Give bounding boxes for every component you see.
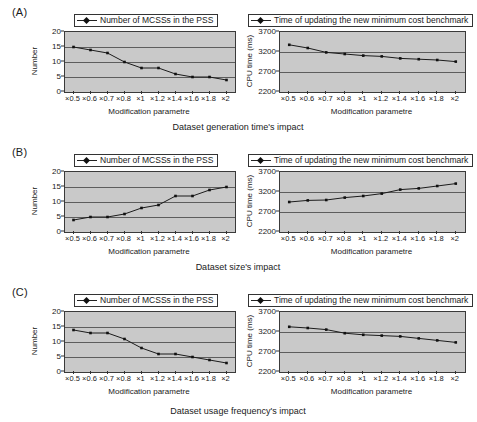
y-tick-label: 3200 [258, 327, 276, 336]
data-point [72, 219, 75, 222]
plot-area [279, 31, 466, 93]
data-point [399, 335, 402, 338]
x-tick-label: ×1.8 [429, 234, 444, 243]
x-tick-label: ×2 [221, 374, 230, 383]
data-series [65, 312, 235, 372]
legend-marker-icon [77, 16, 97, 25]
data-point [306, 199, 309, 202]
legend-label: Number of MCSSs in the PSS [100, 16, 213, 25]
legend-label: Number of MCSSs in the PSS [100, 156, 213, 165]
data-series [280, 32, 465, 92]
y-tick-mark [276, 191, 279, 192]
chart-a-right: Time of updating the new minimum cost be… [243, 0, 475, 140]
y-axis: 2200270032003700 [255, 31, 276, 91]
y-tick-label: 5 [57, 212, 61, 221]
x-tick-label: ×1.2 [373, 94, 388, 103]
data-point [89, 49, 92, 52]
x-tick-label: ×0.8 [336, 374, 351, 383]
data-point [123, 213, 126, 216]
x-tick-label: ×1.8 [429, 94, 444, 103]
x-tick-label: ×1 [358, 94, 367, 103]
y-tick-mark [61, 61, 64, 62]
data-series [65, 32, 235, 92]
x-tick-label: ×1.6 [184, 234, 199, 243]
data-point [436, 59, 439, 62]
x-axis: ×0.5×0.6×0.7×0.8×1×1.2×1.4×1.6×1.8×2 [279, 231, 464, 241]
y-tick-mark [276, 171, 279, 172]
legend-marker-icon [251, 156, 271, 165]
y-tick-mark [61, 186, 64, 187]
y-axis: 05101520 [40, 31, 61, 91]
legend-b-right: Time of updating the new minimum cost be… [248, 154, 473, 167]
chart-c-left: Number of MCSSs in the PSS 05101520Numbe… [14, 280, 240, 420]
y-tick-label: 15 [52, 182, 61, 191]
x-tick-label: ×0.8 [116, 374, 131, 383]
x-tick-label: ×0.5 [281, 94, 296, 103]
y-tick-mark [276, 211, 279, 212]
x-tick-label: ×0.6 [299, 94, 314, 103]
y-axis: 05101520 [40, 171, 61, 231]
x-axis-label: Modification parametre [108, 387, 189, 396]
legend-label: Number of MCSSs in the PSS [100, 296, 213, 305]
y-tick-mark [276, 31, 279, 32]
x-tick-label: ×0.8 [116, 234, 131, 243]
x-tick-label: ×0.7 [99, 94, 114, 103]
y-tick-label: 2700 [258, 207, 276, 216]
y-tick-label: 3700 [258, 167, 276, 176]
x-axis-label: Modification parametre [108, 107, 189, 116]
x-tick-label: ×2 [450, 374, 459, 383]
data-point [123, 338, 126, 341]
y-axis-label: Number [30, 311, 39, 371]
x-tick-label: ×0.5 [281, 374, 296, 383]
y-tick-label: 2200 [258, 367, 276, 376]
data-point [362, 195, 365, 198]
y-tick-label: 0 [57, 367, 61, 376]
y-tick-label: 5 [57, 352, 61, 361]
y-tick-label: 20 [52, 307, 61, 316]
y-tick-label: 2700 [258, 347, 276, 356]
y-tick-mark [276, 311, 279, 312]
panel-b: (B) Number of MCSSs in the PSS 05101520N… [0, 140, 477, 280]
data-point [72, 46, 75, 49]
legend-c-left: Number of MCSSs in the PSS [74, 294, 218, 307]
x-tick-label: ×1.6 [184, 374, 199, 383]
data-point [288, 201, 291, 204]
legend-marker-icon [251, 16, 271, 25]
data-series [65, 172, 235, 232]
y-axis: 2200270032003700 [255, 171, 276, 231]
legend-marker-icon [251, 296, 271, 305]
y-tick-mark [61, 46, 64, 47]
x-tick-label: ×1.8 [201, 94, 216, 103]
data-point [174, 353, 177, 356]
data-point [325, 51, 328, 54]
data-point [362, 54, 365, 57]
panel-caption-b: Dataset size's impact [196, 262, 281, 272]
x-axis-label: Modification parametre [331, 247, 412, 256]
data-point [208, 76, 211, 79]
x-axis: ×0.5×0.6×0.7×0.8×1×1.2×1.4×1.6×1.8×2 [64, 371, 234, 381]
x-tick-label: ×1.4 [392, 94, 407, 103]
data-point [174, 195, 177, 198]
plot-area [279, 171, 466, 233]
data-point [106, 216, 109, 219]
y-tick-label: 3200 [258, 187, 276, 196]
x-tick-label: ×1 [358, 374, 367, 383]
y-tick-mark [276, 51, 279, 52]
data-point [325, 328, 328, 331]
y-axis-label: Number [30, 171, 39, 231]
x-tick-label: ×1 [358, 234, 367, 243]
x-axis: ×0.5×0.6×0.7×0.8×1×1.2×1.4×1.6×1.8×2 [64, 231, 234, 241]
x-tick-label: ×0.6 [82, 234, 97, 243]
data-point [306, 327, 309, 330]
y-tick-label: 10 [52, 197, 61, 206]
panel-c: (C) Number of MCSSs in the PSS 05101520N… [0, 280, 477, 420]
chart-b-left: Number of MCSSs in the PSS 05101520Numbe… [14, 140, 240, 280]
x-tick-label: ×1 [136, 234, 145, 243]
data-point [123, 61, 126, 64]
y-tick-label: 3700 [258, 307, 276, 316]
data-point [436, 185, 439, 188]
x-tick-label: ×0.5 [281, 234, 296, 243]
data-point [362, 334, 365, 337]
legend-a-left: Number of MCSSs in the PSS [74, 14, 218, 27]
x-tick-label: ×1.6 [410, 234, 425, 243]
